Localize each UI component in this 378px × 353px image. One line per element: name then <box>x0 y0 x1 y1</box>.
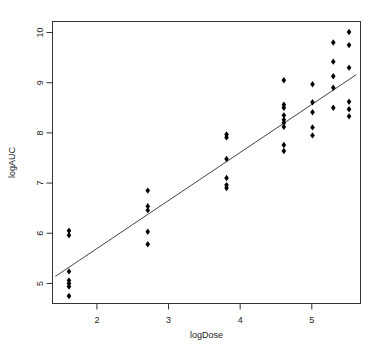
fit-line-segment <box>55 75 356 277</box>
data-point <box>331 73 336 79</box>
data-point <box>282 148 287 154</box>
regression-line <box>55 75 356 277</box>
y-tick-label: 7 <box>36 181 46 186</box>
data-point <box>282 142 287 148</box>
data-point <box>145 241 150 247</box>
data-point <box>67 232 72 238</box>
data-point <box>347 113 352 119</box>
data-point <box>310 109 315 115</box>
data-point <box>224 175 229 181</box>
x-tick-label: 3 <box>166 315 171 325</box>
y-axis-ticks: 5678910 <box>36 28 53 286</box>
data-point <box>347 106 352 112</box>
data-point <box>145 229 150 235</box>
x-axis-title: logDose <box>190 330 223 340</box>
y-tick-label: 10 <box>36 28 46 38</box>
data-point <box>331 58 336 64</box>
y-tick-label: 8 <box>36 130 46 135</box>
x-tick-label: 2 <box>94 315 99 325</box>
data-point <box>67 268 72 274</box>
data-point <box>331 39 336 45</box>
plot-frame <box>53 22 361 304</box>
x-axis-ticks: 2345 <box>94 304 314 325</box>
x-tick-label: 5 <box>309 315 314 325</box>
data-point <box>331 105 336 111</box>
data-point <box>347 64 352 70</box>
data-point <box>347 29 352 35</box>
data-point <box>310 81 315 87</box>
data-point <box>347 99 352 105</box>
data-point <box>310 132 315 138</box>
data-point <box>67 293 72 299</box>
x-tick-label: 4 <box>238 315 243 325</box>
data-point <box>282 77 287 83</box>
data-point <box>331 85 336 91</box>
y-tick-label: 9 <box>36 80 46 85</box>
y-tick-label: 5 <box>36 281 46 286</box>
y-tick-label: 6 <box>36 231 46 236</box>
scatter-plot-figure: 2345 5678910 logDose logAUC <box>0 0 378 353</box>
data-point <box>347 42 352 48</box>
data-point <box>145 207 150 213</box>
data-point <box>310 124 315 130</box>
y-axis-title: logAUC <box>7 146 17 178</box>
data-point <box>145 187 150 193</box>
data-point <box>224 156 229 162</box>
plot-canvas: 2345 5678910 logDose logAUC <box>0 0 378 353</box>
data-points <box>67 29 352 299</box>
